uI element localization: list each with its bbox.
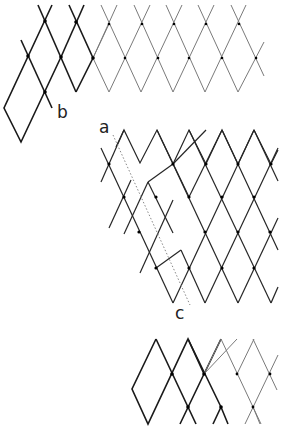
top-bold-lines bbox=[4, 5, 93, 142]
label-c: c bbox=[175, 303, 184, 323]
top-lattice: b bbox=[4, 5, 264, 142]
middle-lines bbox=[101, 130, 278, 303]
top-thin-lines bbox=[93, 5, 264, 92]
top-dots bbox=[26, 19, 257, 94]
bottom-thin-lines bbox=[204, 339, 278, 424]
lattice-diagram: b bbox=[0, 0, 283, 432]
label-a: a bbox=[99, 117, 109, 137]
label-b: b bbox=[57, 102, 68, 122]
middle-lattice: a c bbox=[99, 117, 278, 323]
bottom-lattice bbox=[132, 339, 278, 424]
bottom-bold-lines bbox=[132, 339, 228, 424]
slip-line-a-c bbox=[113, 135, 190, 305]
diagram-canvas: b bbox=[0, 0, 283, 432]
